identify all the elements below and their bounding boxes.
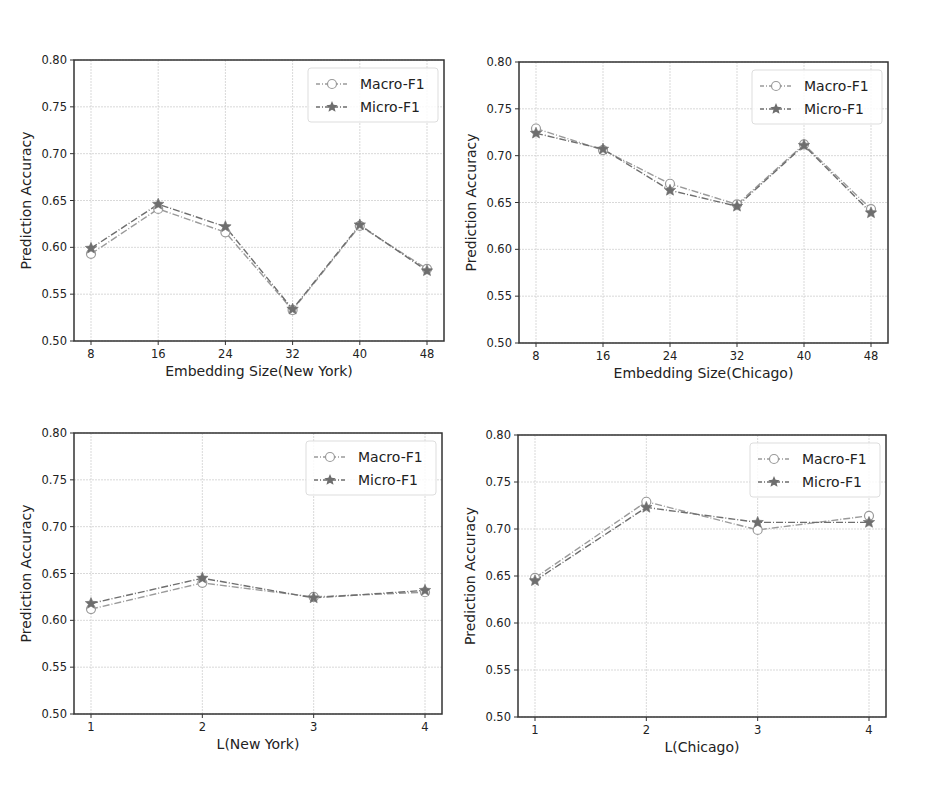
series-line-macro-f1 — [91, 583, 425, 609]
y-tick-label: 0.60 — [486, 242, 512, 256]
legend-label: Micro-F1 — [802, 474, 862, 490]
y-tick-label: 0.55 — [485, 663, 511, 677]
x-axis-label: L(Chicago) — [665, 739, 740, 755]
series-line-micro-f1 — [91, 578, 425, 603]
y-tick-label: 0.70 — [41, 520, 67, 534]
legend-label: Macro-F1 — [360, 76, 425, 92]
legend-circle-icon — [770, 455, 779, 464]
y-tick-label: 0.80 — [41, 426, 67, 440]
y-tick-label: 0.50 — [485, 710, 511, 724]
y-axis-label: Prediction Accuracy — [18, 505, 34, 643]
legend: Macro-F1Micro-F1 — [752, 70, 882, 124]
legend-label: Micro-F1 — [358, 472, 418, 488]
legend-circle-icon — [326, 453, 335, 462]
x-tick-label: 2 — [199, 720, 206, 734]
y-axis-label: Prediction Accuracy — [462, 507, 478, 645]
y-tick-label: 0.80 — [41, 53, 67, 67]
x-tick-label: 16 — [596, 349, 611, 363]
series-line-macro-f1 — [535, 502, 869, 578]
x-tick-label: 24 — [663, 349, 678, 363]
y-tick-label: 0.80 — [486, 55, 512, 69]
y-tick-label: 0.80 — [485, 428, 511, 442]
y-tick-label: 0.75 — [485, 475, 511, 489]
legend: Macro-F1Micro-F1 — [306, 441, 436, 495]
series-line-micro-f1 — [536, 133, 871, 213]
y-tick-label: 0.65 — [486, 196, 512, 210]
x-tick-label: 16 — [151, 347, 166, 361]
y-tick-label: 0.50 — [41, 334, 67, 348]
x-tick-label: 3 — [754, 723, 761, 737]
x-tick-label: 8 — [87, 347, 94, 361]
y-tick-label: 0.60 — [41, 613, 67, 627]
series-line-macro-f1 — [91, 209, 427, 310]
y-tick-label: 0.70 — [41, 147, 67, 161]
y-tick-label: 0.55 — [41, 660, 67, 674]
y-tick-label: 0.75 — [41, 473, 67, 487]
x-tick-label: 2 — [643, 723, 650, 737]
y-tick-label: 0.70 — [486, 149, 512, 163]
x-tick-label: 8 — [532, 349, 539, 363]
y-tick-label: 0.60 — [485, 616, 511, 630]
legend-label: Micro-F1 — [360, 99, 420, 115]
chart-l-new-york-plot: 0.500.550.600.650.700.750.801234L(New Yo… — [18, 426, 442, 752]
x-tick-label: 3 — [310, 720, 317, 734]
y-tick-label: 0.50 — [486, 336, 512, 350]
y-tick-label: 0.65 — [41, 567, 67, 581]
x-axis-label: Embedding Size(Chicago) — [614, 365, 794, 381]
x-tick-label: 32 — [285, 347, 300, 361]
x-tick-label: 48 — [420, 347, 435, 361]
y-tick-label: 0.75 — [486, 102, 512, 116]
y-tick-label: 0.65 — [41, 194, 67, 208]
chart-embedding-new-york-plot: 0.500.550.600.650.700.750.8081624324048E… — [18, 53, 444, 379]
x-tick-label: 1 — [531, 723, 538, 737]
x-tick-label: 48 — [864, 349, 879, 363]
legend-label: Macro-F1 — [802, 451, 867, 467]
x-axis-label: L(New York) — [217, 736, 300, 752]
x-axis-label: Embedding Size(New York) — [165, 363, 353, 379]
series-line-macro-f1 — [536, 129, 871, 210]
y-tick-label: 0.55 — [486, 289, 512, 303]
y-axis-label: Prediction Accuracy — [463, 134, 479, 272]
legend-label: Macro-F1 — [804, 78, 869, 94]
legend-label: Micro-F1 — [804, 101, 864, 117]
figure-canvas: 0.500.550.600.650.700.750.8081624324048E… — [0, 0, 940, 796]
x-tick-label: 4 — [865, 723, 872, 737]
y-tick-label: 0.75 — [41, 100, 67, 114]
y-tick-label: 0.65 — [485, 569, 511, 583]
chart-embedding-chicago-plot: 0.500.550.600.650.700.750.8081624324048E… — [463, 55, 888, 381]
y-tick-label: 0.55 — [41, 287, 67, 301]
legend-circle-icon — [772, 82, 781, 91]
x-tick-label: 32 — [730, 349, 745, 363]
y-axis-label: Prediction Accuracy — [18, 132, 34, 270]
x-tick-label: 1 — [87, 720, 94, 734]
x-tick-label: 4 — [421, 720, 428, 734]
legend: Macro-F1Micro-F1 — [750, 443, 880, 497]
legend: Macro-F1Micro-F1 — [308, 68, 438, 122]
x-tick-label: 40 — [352, 347, 367, 361]
x-tick-label: 24 — [218, 347, 233, 361]
y-tick-label: 0.50 — [41, 707, 67, 721]
y-tick-label: 0.70 — [485, 522, 511, 536]
legend-circle-icon — [328, 80, 337, 89]
legend-label: Macro-F1 — [358, 449, 423, 465]
y-tick-label: 0.60 — [41, 240, 67, 254]
x-tick-label: 40 — [797, 349, 812, 363]
chart-l-chicago-plot: 0.500.550.600.650.700.750.801234L(Chicag… — [462, 428, 886, 755]
